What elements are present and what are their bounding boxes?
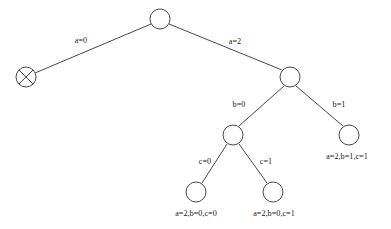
node-failed-crossed[interactable] <box>16 67 36 87</box>
leaf-label-a2-b0-c0: a=2,b=0,c=0 <box>175 209 217 218</box>
edge-a-equals-2 <box>169 24 282 70</box>
edge-label-c-equals-1: c=1 <box>260 157 272 166</box>
edge-label-a-equals-0: a=0 <box>75 36 87 45</box>
node-root[interactable] <box>150 9 170 29</box>
edge-label-b-equals-1: b=1 <box>333 100 346 109</box>
node-a2-b0[interactable] <box>223 125 243 145</box>
node-a2-b1-c1[interactable] <box>339 125 359 145</box>
search-tree-diagram: a=0 a=2 b=0 b=1 c=0 c=1 a=2,b=1,c=1 a=2,… <box>0 0 391 229</box>
node-group <box>16 9 359 202</box>
leaf-label-a2-b0-c1: a=2,b=0,c=1 <box>253 209 295 218</box>
edge-label-b-equals-0: b=0 <box>233 100 246 109</box>
edge-a-equals-0 <box>35 24 151 73</box>
edge-label-a-equals-2: a=2 <box>229 37 241 46</box>
edge-group <box>35 24 343 183</box>
node-a2-b0-c1[interactable] <box>263 182 283 202</box>
node-a2[interactable] <box>280 67 300 87</box>
edge-label-c-equals-0: c=0 <box>199 157 211 166</box>
node-a2-b0-c0[interactable] <box>186 182 206 202</box>
edge-label-group: a=0 a=2 b=0 b=1 c=0 c=1 <box>75 36 346 166</box>
edge-b-equals-0 <box>239 86 284 126</box>
leaf-label-a2-b1-c1: a=2,b=1,c=1 <box>326 152 368 161</box>
